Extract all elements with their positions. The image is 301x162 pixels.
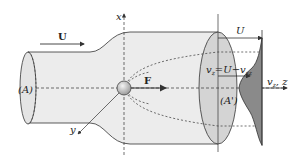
z-axis-label: vz, z — [267, 76, 288, 88]
outlet-label: (A') — [220, 95, 238, 106]
wake-flow-diagram: (A) (A') x y U vz=U−vsz vz, z U F — [0, 0, 301, 162]
profile-u-label: U — [236, 25, 245, 36]
flow-velocity-label: U — [58, 31, 67, 42]
particle — [117, 81, 131, 95]
inlet-surface: (A) — [18, 52, 36, 124]
y-axis-label: y — [69, 124, 76, 135]
wake-velocity-profile — [239, 30, 262, 146]
inlet-label: (A) — [18, 84, 33, 95]
x-axis-label: x — [116, 11, 122, 22]
force-label: F — [144, 75, 151, 86]
